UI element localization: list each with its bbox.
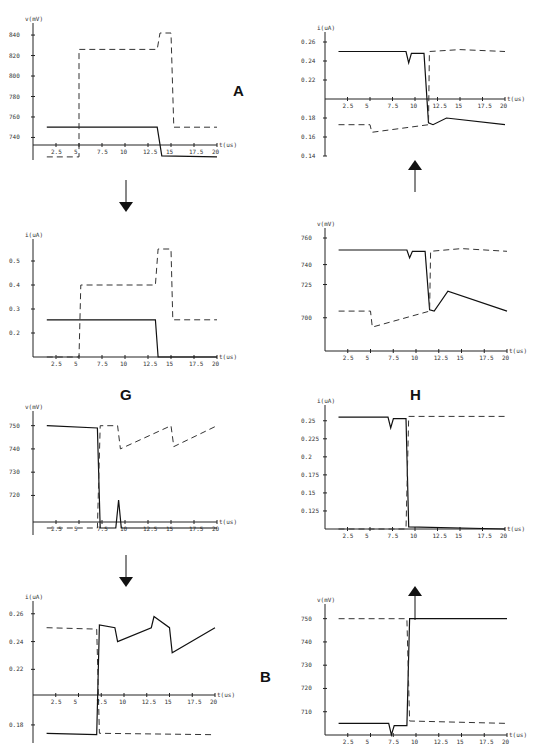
y-axis-label: v(mV) (25, 15, 43, 22)
y-tick-label: 720 (301, 684, 312, 691)
x-axis-label: t(us) (507, 525, 525, 532)
chart-panel-mid-left: i(uA)t(us)2.557.51012.51517.5200.20.30.4… (9, 231, 237, 367)
x-tick-label: 7.5 (388, 532, 399, 539)
y-tick-label: 0.2 (301, 453, 312, 460)
chart-panel-bottom-left: i(uA)t(us)2.557.51012.51517.5200.180.220… (9, 593, 235, 743)
x-tick-label: 12.5 (433, 532, 448, 539)
x-tick-label: 12.5 (433, 102, 448, 109)
x-tick-label: 5 (74, 698, 78, 705)
x-tick-label: 10 (410, 102, 418, 109)
y-tick-label: 0.22 (301, 76, 316, 83)
chart-panel-lower-left: v(mV)t(us)2.557.51012.51517.520720730740… (9, 403, 237, 535)
y-axis-label: i(uA) (317, 24, 335, 31)
y-tick-label: 0.14 (301, 152, 316, 159)
x-tick-label: 20 (210, 698, 218, 705)
series-solid (339, 417, 506, 529)
x-axis-label: t(us) (507, 95, 525, 102)
x-tick-label: 15 (457, 354, 465, 361)
y-tick-label: 0.22 (9, 665, 24, 672)
y-tick-label: 760 (301, 234, 312, 241)
y-tick-label: 0.16 (301, 133, 316, 140)
y-tick-label: 740 (9, 133, 20, 140)
x-tick-label: 17.5 (189, 360, 204, 367)
series-solid (339, 250, 507, 311)
chart-panel-mid-right: v(mV)t(us)2.557.51012.51517.520700725740… (301, 220, 527, 361)
series-solid (339, 52, 506, 125)
y-tick-label: 840 (9, 31, 20, 38)
x-tick-label: 2.5 (51, 698, 62, 705)
x-tick-label: 20 (502, 738, 510, 745)
y-tick-label: 730 (301, 661, 312, 668)
x-tick-label: 12.5 (142, 698, 157, 705)
x-tick-label: 7.5 (388, 354, 399, 361)
x-tick-label: 10 (411, 738, 419, 745)
x-tick-label: 5 (365, 532, 369, 539)
chart-panel-top-left: v(mV)t(us)2.557.51012.51517.520740760780… (9, 15, 237, 160)
plots-canvas: v(mV)t(us)2.557.51012.51517.520740760780… (0, 0, 539, 752)
y-axis-label: v(mV) (317, 220, 335, 227)
y-tick-label: 740 (9, 445, 20, 452)
x-axis-label: t(us) (509, 347, 527, 354)
y-tick-label: 820 (9, 52, 20, 59)
y-tick-label: 780 (9, 93, 20, 100)
x-tick-label: 20 (212, 360, 220, 367)
x-tick-label: 7.5 (97, 360, 108, 367)
x-tick-label: 17.5 (189, 148, 204, 155)
series-dashed (47, 426, 217, 528)
x-tick-label: 5 (366, 354, 370, 361)
x-tick-label: 20 (502, 354, 510, 361)
x-tick-label: 12.5 (434, 354, 449, 361)
x-tick-label: 10 (120, 148, 128, 155)
series-solid (339, 619, 507, 735)
y-tick-label: 0.15 (301, 489, 316, 496)
x-tick-label: 15 (455, 532, 463, 539)
x-tick-label: 12.5 (143, 148, 158, 155)
x-tick-label: 5 (366, 738, 370, 745)
series-solid (47, 426, 217, 528)
series-dashed (339, 50, 506, 133)
series-dashed (47, 33, 217, 157)
x-tick-label: 10 (410, 532, 418, 539)
x-tick-label: 5 (74, 148, 78, 155)
series-dashed (47, 628, 215, 735)
y-tick-label: 0.24 (9, 638, 24, 645)
x-axis-label: t(us) (219, 353, 237, 360)
y-tick-label: 750 (9, 422, 20, 429)
y-tick-label: 0.3 (9, 305, 20, 312)
y-tick-label: 0.175 (301, 471, 319, 478)
y-tick-label: 0.18 (9, 721, 24, 728)
x-tick-label: 2.5 (343, 738, 354, 745)
y-tick-label: 0.26 (9, 610, 24, 617)
series-dashed (339, 619, 507, 724)
x-axis-label: t(us) (219, 141, 237, 148)
y-tick-label: 0.4 (9, 281, 20, 288)
x-tick-label: 15 (455, 102, 463, 109)
series-dashed (47, 249, 217, 357)
y-tick-label: 700 (301, 314, 312, 321)
x-tick-label: 2.5 (343, 102, 354, 109)
chart-panel-top-right: i(uA)t(us)2.557.51012.51517.5200.140.160… (301, 24, 525, 159)
y-axis-label: v(mV) (25, 403, 43, 410)
x-tick-label: 17.5 (478, 532, 493, 539)
y-tick-label: 0.18 (301, 114, 316, 121)
x-tick-label: 20 (212, 148, 220, 155)
x-tick-label: 12.5 (434, 738, 449, 745)
x-tick-label: 2.5 (343, 354, 354, 361)
x-tick-label: 17.5 (478, 102, 493, 109)
y-tick-label: 720 (9, 491, 20, 498)
y-tick-label: 0.125 (301, 507, 319, 514)
x-tick-label: 17.5 (187, 698, 202, 705)
y-tick-label: 0.24 (301, 57, 316, 64)
x-tick-label: 17.5 (479, 354, 494, 361)
x-tick-label: 2.5 (51, 360, 62, 367)
series-dashed (339, 416, 506, 529)
x-tick-label: 15 (166, 148, 174, 155)
x-tick-label: 10 (119, 698, 127, 705)
x-axis-label: t(us) (219, 518, 237, 525)
y-tick-label: 730 (9, 468, 20, 475)
y-tick-label: 740 (301, 638, 312, 645)
y-tick-label: 0.5 (9, 257, 20, 264)
x-tick-label: 2.5 (51, 148, 62, 155)
x-tick-label: 17.5 (479, 738, 494, 745)
y-axis-label: i(uA) (25, 231, 43, 238)
